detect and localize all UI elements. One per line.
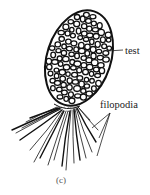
test-shell — [33, 2, 124, 115]
test-label: test — [125, 46, 140, 57]
panel-label: (c) — [56, 176, 66, 185]
amoeba-illustration — [0, 0, 150, 195]
filopodia-strands — [12, 107, 98, 170]
filopodia-label: filopodia — [100, 100, 138, 111]
